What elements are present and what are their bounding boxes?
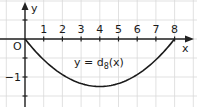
svg-text:−1: −1 [5,71,21,84]
grid [0,0,197,107]
axes [0,2,194,107]
function-annotation: y = d8(x) [74,56,124,71]
svg-text:6: 6 [134,23,141,36]
svg-text:3: 3 [78,23,85,36]
svg-text:7: 7 [152,23,159,36]
y-axis-label: y [31,2,38,15]
svg-text:5: 5 [115,23,122,36]
function-graph: 12345678−1 x y O y = d8(x) [0,0,197,107]
svg-text:8: 8 [171,23,178,36]
svg-text:4: 4 [96,23,103,36]
tick-labels: 12345678−1 [5,23,178,84]
origin-label: O [13,40,22,53]
svg-text:1: 1 [40,23,47,36]
x-axis-label: x [182,42,189,55]
svg-text:2: 2 [59,23,66,36]
